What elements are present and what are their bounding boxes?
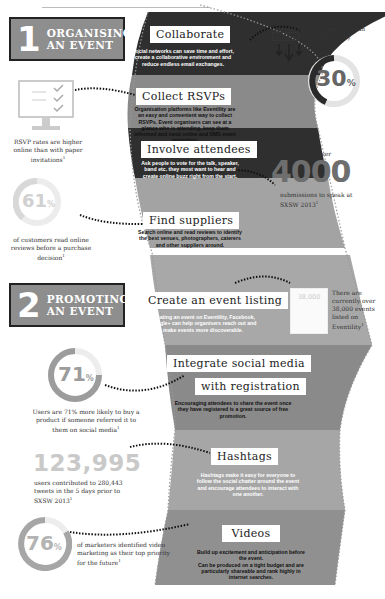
card-body-create-event-listing: Creating an event on Eventility, Faceboo…	[148, 314, 258, 333]
reduce-box: reduce	[272, 32, 299, 41]
down-arrows-icon	[275, 44, 303, 62]
card-title-with-registration: with registration	[195, 378, 306, 395]
stat-referrals-value: 71%	[58, 362, 94, 386]
listing-badge: 38,000	[290, 288, 328, 334]
card-body-hashtags: Hashtags make it easy for everyone to fo…	[193, 472, 303, 497]
card-title-collaborate: Collaborate	[150, 26, 230, 43]
card-title-videos: Videos	[222, 525, 280, 542]
card-body-involve-attendees: Ask people to vote for the talk, speaker…	[140, 160, 240, 179]
card-body-integrate-social-media: Encouraging attendees to share the event…	[173, 400, 293, 419]
stat-referrals-text: Users are 71% more likely to buy a produ…	[30, 408, 142, 434]
section-label-line2: AN EVENT	[47, 305, 129, 317]
card-title-find-suppliers: Find suppliers	[143, 212, 239, 229]
stat-sxsw-value: 4000	[271, 154, 351, 189]
stat-sxsw-text: submissions to speak at SXSW 20131	[280, 191, 355, 209]
stat-listings-text: There are currently over 38,000 events l…	[332, 289, 384, 331]
stat-video-value: 76%	[26, 531, 62, 555]
card-body-collaborate: Social networks can save time and effort…	[128, 48, 238, 67]
section-label-line1: PROMOTING	[47, 293, 129, 305]
card-title-create-event-listing: Create an event listing	[142, 292, 288, 309]
stat-email-text: Internal social networking can reduce em…	[272, 25, 382, 41]
stat-email-value: 30%	[316, 66, 356, 91]
section-1-badge: 1 ORGANISING AN EVENT	[9, 17, 125, 61]
stat-reviews-value: 61%	[22, 190, 55, 211]
card-body-videos: Build up excitement and anticipation bef…	[196, 549, 306, 580]
card-title-involve-attendees: Involve attendees	[141, 141, 257, 158]
section-2-badge: 2 PROMOTING AN EVENT	[9, 283, 125, 327]
section-label-line2: AN EVENT	[47, 39, 133, 51]
stat-reviews-text: of customers read online reviews before …	[10, 236, 92, 262]
section-number: 1	[17, 22, 41, 56]
section-label-line1: ORGANISING	[47, 27, 133, 39]
card-body-collect-rsvps: Organisation platforms like Eventility a…	[132, 106, 238, 144]
section-number: 2	[17, 288, 41, 322]
card-body-find-suppliers: Search online and read reviews to identi…	[135, 229, 245, 248]
monitor-checklist-icon	[18, 80, 74, 132]
stat-video-text: of marketers identified video marketing …	[77, 541, 177, 567]
stat-tweets-value: 123,995	[33, 450, 141, 476]
stat-tweets-text: users contributed to 280,443 tweets in t…	[34, 479, 134, 505]
card-title-integrate-social-media: Integrate social media	[167, 355, 311, 372]
card-title-collect-rsvps: Collect RSVPs	[136, 88, 231, 105]
stat-rsvp-text: RSVP rates are higher online than with p…	[12, 138, 84, 164]
card-title-hashtags: Hashtags	[211, 448, 278, 465]
